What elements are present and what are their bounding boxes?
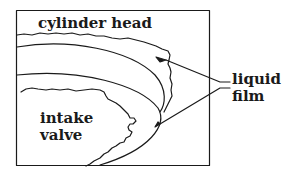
label-cylinder-head: cylinder head	[38, 14, 152, 32]
leader-line-lower	[160, 88, 230, 124]
valve-seat-outer-arc	[17, 44, 164, 112]
leader-line-upper	[166, 60, 230, 82]
arrow-tip-upper-icon	[156, 57, 166, 62]
intake-valve-liquid-film-diagram: cylinder head intake valve liquid film	[0, 0, 292, 176]
label-liquid: liquid	[232, 70, 281, 88]
label-valve: valve	[39, 126, 82, 144]
label-film: film	[232, 87, 265, 105]
label-intake: intake	[40, 109, 93, 127]
